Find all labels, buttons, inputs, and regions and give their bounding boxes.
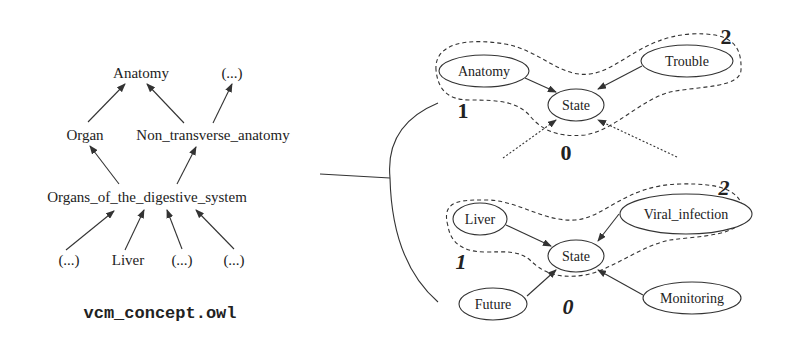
node-future-label: Future bbox=[475, 297, 512, 312]
edge-future-state bbox=[527, 270, 556, 296]
node-liver: Liver bbox=[112, 252, 144, 268]
node-state-label: State bbox=[562, 98, 590, 113]
node-non-transverse-anatomy: Non_transverse_anatomy bbox=[136, 127, 290, 143]
node-anatomy-label: Anatomy bbox=[458, 64, 510, 79]
edge-ellipsis2-ods bbox=[167, 210, 182, 249]
node-ellipsis-2: (...) bbox=[171, 252, 192, 269]
node-trouble-label: Trouble bbox=[665, 54, 709, 69]
edge-monitoring-state bbox=[598, 270, 643, 295]
node-anatomy: Anatomy bbox=[113, 65, 169, 81]
edge-ellipsis3-ods bbox=[196, 210, 234, 249]
edge-nta-ellipsis bbox=[213, 84, 232, 123]
node-ellipsis-top: (...) bbox=[221, 65, 242, 82]
edge-ods-nta bbox=[177, 147, 196, 184]
ontology-tree: Anatomy (...) Organ Non_transverse_anato… bbox=[47, 65, 290, 323]
edge-anatomy-state bbox=[525, 78, 556, 92]
level-label-1: 1 bbox=[456, 249, 467, 274]
edge-liver-state bbox=[506, 225, 551, 246]
node-ellipsis-3: (...) bbox=[223, 252, 244, 269]
node-viral-infection-label: Viral_infection bbox=[644, 207, 729, 222]
level-label-1: 1 bbox=[458, 98, 469, 123]
edge-ods-organ bbox=[90, 146, 119, 184]
connector-bracket bbox=[320, 103, 438, 302]
edge-liver-ods bbox=[125, 210, 144, 250]
edge-ellipsis1-ods bbox=[66, 211, 114, 250]
connector-line bbox=[320, 174, 390, 178]
graph-generic: Anatomy Trouble State 1 2 0 bbox=[436, 24, 741, 165]
graph-instance: Liver Viral_infection State Future Monit… bbox=[446, 175, 752, 320]
ontology-file-title: vcm_concept.owl bbox=[83, 304, 236, 323]
connector-arc bbox=[390, 103, 438, 302]
edge-viral-infection-state bbox=[598, 214, 619, 241]
edge-incoming-left bbox=[503, 120, 556, 158]
node-state-label: State bbox=[562, 249, 590, 264]
node-ellipsis-1: (...) bbox=[58, 252, 79, 269]
edge-organ-anatomy bbox=[88, 84, 125, 122]
node-liver-label: Liver bbox=[465, 212, 496, 227]
node-organ: Organ bbox=[66, 127, 104, 143]
diagram-canvas: Anatomy (...) Organ Non_transverse_anato… bbox=[0, 0, 810, 346]
node-organs-of-the-digestive-system: Organs_of_the_digestive_system bbox=[47, 189, 247, 205]
edge-nta-anatomy bbox=[147, 84, 184, 123]
level-label-0: 0 bbox=[561, 140, 572, 165]
level-label-2: 2 bbox=[718, 175, 730, 200]
node-monitoring-label: Monitoring bbox=[660, 291, 724, 306]
level-label-2: 2 bbox=[721, 24, 732, 49]
level-label-0: 0 bbox=[563, 294, 574, 319]
